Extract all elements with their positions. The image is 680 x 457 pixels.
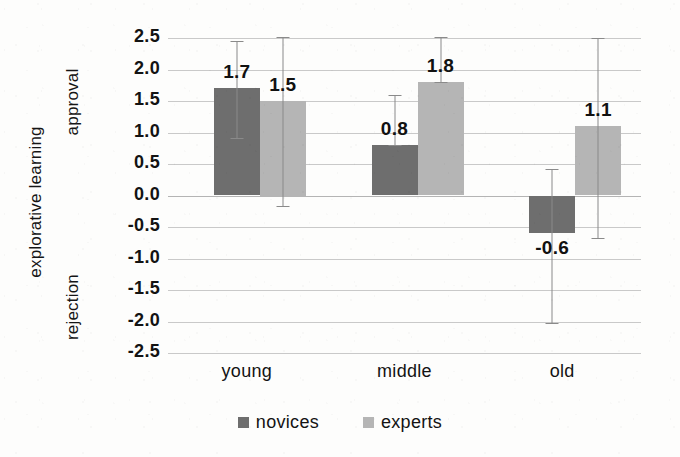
legend-label: novices	[256, 412, 319, 433]
x-axis-label-middle: middle	[326, 361, 484, 382]
legend-item-novices[interactable]: novices	[238, 412, 319, 433]
error-bar-stem	[598, 38, 599, 238]
y-axis-tick-label: 2.5	[108, 26, 160, 47]
data-label-middle-experts: 1.8	[418, 55, 464, 77]
y-axis-tick-label: 2.0	[108, 58, 160, 79]
y-axis-annotation-rejection: rejection	[63, 247, 83, 367]
error-bar-cap-bottom	[592, 238, 605, 239]
y-axis-tick-label: 1.5	[108, 89, 160, 110]
y-axis-tick-label: -2.0	[108, 310, 160, 331]
data-label-middle-novices: 0.8	[372, 118, 418, 140]
error-bar-cap-top	[434, 37, 447, 38]
error-bar-cap-top	[388, 95, 401, 96]
legend-label: experts	[381, 412, 442, 433]
plot-area: 1.70.8-0.61.51.81.1	[168, 38, 641, 353]
error-bar-cap-top	[546, 169, 559, 170]
error-bar-cap-top	[230, 41, 243, 42]
error-bar-cap-bottom	[230, 138, 243, 139]
y-axis-tick-label: 0.0	[108, 184, 160, 205]
y-axis-tick-label: -1.0	[108, 247, 160, 268]
y-axis-tick-label: 1.0	[108, 121, 160, 142]
error-bar-young-novices	[214, 41, 260, 137]
error-bar-stem	[236, 41, 237, 137]
x-axis-label-old: old	[483, 361, 641, 382]
error-bar-cap-bottom	[276, 206, 289, 207]
gridline	[168, 353, 641, 354]
error-bar-young-experts	[260, 37, 306, 206]
legend-swatch-icon	[363, 417, 374, 428]
error-bar-cap-top	[276, 37, 289, 38]
gridline	[168, 38, 641, 39]
bar-middle-experts	[418, 82, 464, 195]
error-bar-cap-bottom	[434, 82, 447, 83]
y-axis-annotation-approval: approval	[63, 42, 83, 162]
data-label-young-experts: 1.5	[260, 74, 306, 96]
y-axis-tick-label: -2.5	[108, 341, 160, 362]
legend: novicesexperts	[0, 412, 680, 433]
y-axis-tick-label: -1.5	[108, 278, 160, 299]
legend-item-experts[interactable]: experts	[363, 412, 442, 433]
error-bar-cap-top	[592, 38, 605, 39]
error-bar-stem	[282, 37, 283, 206]
data-label-old-experts: 1.1	[575, 99, 621, 121]
y-axis-title: explorative learning	[26, 102, 46, 302]
bar-middle-novices	[372, 145, 418, 195]
error-bar-cap-bottom	[388, 145, 401, 146]
error-bar-old-experts	[575, 38, 621, 238]
x-axis-label-young: young	[168, 361, 326, 382]
data-label-young-novices: 1.7	[214, 61, 260, 83]
error-bar-cap-bottom	[546, 323, 559, 324]
bar-chart: explorative learning approval rejection …	[0, 0, 680, 457]
y-axis-tick-label: -0.5	[108, 215, 160, 236]
data-label-old-novices: -0.6	[529, 237, 575, 259]
legend-swatch-icon	[238, 417, 249, 428]
y-axis-tick-label: 0.5	[108, 152, 160, 173]
